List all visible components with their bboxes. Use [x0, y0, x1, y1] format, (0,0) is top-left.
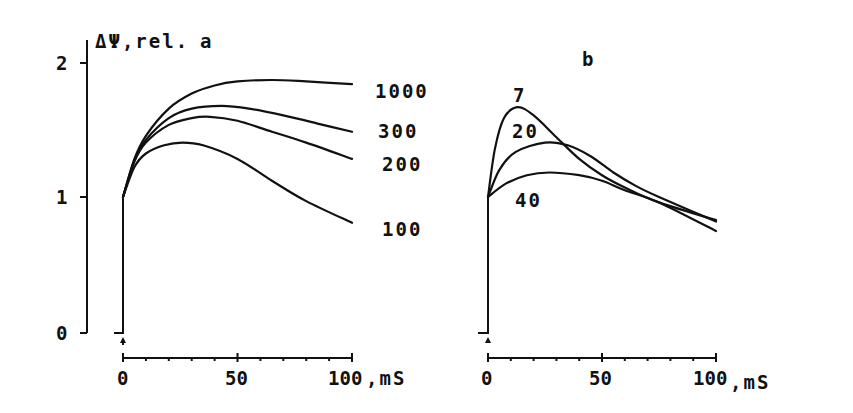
series-label-300: 300 — [378, 120, 418, 142]
series-label-7: 7 — [513, 84, 526, 106]
panel-a-axes: 0 50 100 ,mS — [114, 197, 406, 389]
chart: 2 1 0 ΔΨ,rel. a 0 50 100 ,mS 10003002001… — [0, 0, 853, 413]
series-label-100: 100 — [382, 218, 422, 240]
curve-100 — [123, 143, 352, 223]
y-tick-2: 2 — [56, 52, 67, 74]
stimulus-arrow-icon — [485, 337, 491, 343]
x-tick-50-b: 50 — [589, 367, 612, 389]
stimulus-arrow-icon — [120, 337, 126, 343]
y-tick-1: 1 — [56, 186, 67, 208]
x-tick-100-a: 100 — [328, 367, 362, 389]
panel-a-series-labels: 1000300200100 — [375, 80, 429, 240]
y-axis-label: ΔΨ,rel. — [95, 30, 189, 52]
x-tick-50-a: 50 — [225, 367, 248, 389]
panel-a-curves — [123, 80, 352, 223]
curve-1000 — [123, 80, 352, 197]
y-tick-0: 0 — [56, 322, 67, 344]
series-label-200: 200 — [382, 153, 422, 175]
x-axis-unit-b: ,mS — [730, 371, 770, 393]
y-axis: 2 1 0 ΔΨ,rel. a — [56, 30, 211, 344]
series-label-1000: 1000 — [375, 80, 429, 102]
panel-b-label: b — [582, 48, 593, 70]
series-label-40: 40 — [515, 189, 542, 211]
series-label-20: 20 — [512, 120, 539, 142]
x-tick-0-b: 0 — [481, 367, 492, 389]
x-axis-unit-a: ,mS — [366, 367, 406, 389]
x-tick-0-a: 0 — [117, 367, 128, 389]
panel-a-label: a — [200, 30, 211, 52]
x-tick-100-b: 100 — [693, 367, 727, 389]
